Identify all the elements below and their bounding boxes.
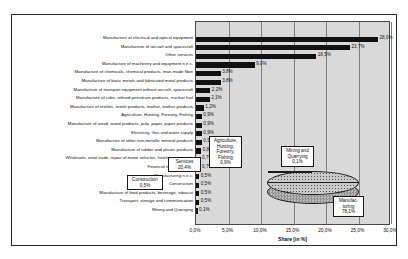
bar-category-label: Manufacture of basic metals and fabricat… [81, 77, 193, 86]
bar-row: Manufacture of aircraft and spacecraft23… [12, 44, 398, 53]
bar-value-label: 2,1% [211, 94, 221, 103]
bar-row: Manufacture of electrical and optical eq… [12, 35, 398, 44]
callout-manufacturing: Manufac- turing 78,1% [333, 196, 364, 217]
callout-mining: Mining and Quarrying 0,1% [281, 146, 314, 167]
callout-services: Services 20,4% [168, 157, 201, 172]
bar-category-label: Manufacture of electrical and optical eq… [103, 34, 193, 43]
bar-row: Manufacture of machinery and equipment n… [12, 61, 398, 70]
bar-value-label: 0,1% [199, 206, 209, 215]
bar-value-label: 0,5% [201, 197, 211, 206]
bar-category-label: Manufacture of chemicals, chemical produ… [75, 68, 193, 77]
bar-value-label: 1,2% [205, 103, 215, 112]
bar-category-label: Manufacture of rubber and plastic produc… [111, 146, 193, 155]
x-tick-label: 15,0% [286, 228, 300, 233]
bar [196, 123, 202, 128]
callout-agriculture: Agriculture, Hunting, Forestry, Fishing … [209, 136, 242, 168]
callout-mining-line-1: Mining and [284, 148, 312, 154]
callout-manufacturing-line-1: Manufac- [336, 198, 362, 204]
bar-category-label: Manufacture of textiles, textile product… [70, 103, 193, 112]
x-tick-label: 25,0% [351, 228, 365, 233]
bar-value-label: 0,5% [201, 189, 211, 198]
callout-mining-value: 0,1% [284, 159, 312, 165]
x-tick-label: 0,0% [190, 228, 201, 233]
bar [196, 80, 221, 85]
bar-category-label: Construction [169, 180, 193, 189]
bar [196, 71, 221, 76]
bar [196, 191, 199, 196]
bar-category-label: Transport, storage and communication [120, 197, 193, 206]
bar-category-label: Manufacture of other non-metallic minera… [96, 137, 193, 146]
callout-agriculture-value: 0,9% [212, 160, 240, 166]
bar-value-label: 28,0% [380, 34, 393, 43]
bar-category-label: Manufacture of transport equipment witho… [74, 86, 193, 95]
bar-category-label: Manufacture of wood, wood products, pulp… [68, 120, 193, 129]
bar [196, 54, 316, 59]
bar [196, 88, 210, 93]
bar [196, 200, 199, 205]
bar [196, 208, 198, 213]
bar-value-label: 23,7% [352, 43, 365, 52]
bar [196, 148, 201, 153]
bar-value-label: 2,2% [212, 86, 222, 95]
chart-container: Manufacture of electrical and optical eq… [11, 14, 397, 246]
bar-value-label: 0,9% [203, 111, 213, 120]
bar [196, 45, 350, 50]
x-tick-label: 30,0% [383, 228, 397, 233]
x-tick-label: 5,0% [222, 228, 233, 233]
bar-category-label: Mining and Quarrying [152, 206, 193, 215]
bar-category-label: Manufacture of aircraft and spacecraft [121, 43, 193, 52]
x-tick-label: 20,0% [318, 228, 332, 233]
bar [196, 37, 378, 42]
bar-value-label: 0,5% [201, 180, 211, 189]
callout-services-value: 20,4% [171, 165, 199, 171]
callout-manufacturing-value: 78,1% [336, 209, 362, 215]
bar [196, 183, 199, 188]
bar-value-label: 3,8% [222, 68, 232, 77]
callout-construction-label: Construction [130, 177, 161, 183]
bar-value-label: 0,9% [203, 120, 213, 129]
pie-top-surface [267, 171, 359, 195]
bar-row: Manufacture of transport equipment witho… [12, 87, 398, 96]
pie-seam [268, 182, 358, 183]
bar-category-label: Agriculture, Hunting, Forestry, Fishing [121, 111, 193, 120]
bar [196, 131, 202, 136]
x-tick-label: 10,0% [253, 228, 267, 233]
callout-construction-value: 0,5% [130, 183, 161, 189]
bar-row: Other services18,5% [12, 52, 398, 61]
bar-value-label: 0,5% [201, 172, 211, 181]
callout-construction: Construction 0,5% [127, 175, 163, 190]
bar-value-label: 18,5% [318, 51, 331, 60]
bar [196, 105, 204, 110]
bar [196, 140, 202, 145]
bar-value-label: 3,8% [222, 77, 232, 86]
pie-slice-divider [268, 171, 312, 173]
bar-row: Manufacture of basic metals and fabricat… [12, 78, 398, 87]
callout-agriculture-line-1: Agriculture, [212, 138, 240, 144]
bar-category-label: Other services [165, 51, 193, 60]
bar-category-label: Manufacture of machinery and equipment n… [102, 60, 193, 69]
bar [196, 114, 202, 119]
x-axis-title: Share [in %] [195, 236, 390, 242]
bar-category-label: Electricity, Gas and water supply [131, 129, 193, 138]
bar-row: Manufacture of chemicals, chemical produ… [12, 69, 398, 78]
bar [196, 174, 199, 179]
bar-category-label: Manufacture of coke, refined petroleum p… [76, 94, 193, 103]
bar [196, 97, 210, 102]
bar-value-label: 9,0% [256, 60, 266, 69]
bar [196, 62, 255, 67]
